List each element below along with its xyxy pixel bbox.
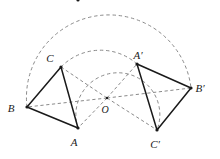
vertex-dot-C	[59, 65, 62, 68]
vertex-dot-B-prime	[189, 86, 192, 89]
triangle-a-prime-b-prime-c-prime	[137, 64, 191, 130]
diagram-canvas: A B C A′ B′ C′ O	[0, 0, 220, 159]
vertex-dot-B	[25, 105, 28, 108]
vertex-dot-A-prime	[135, 62, 138, 65]
vertex-dot-A-cy	[76, 126, 79, 129]
vertex-dot-A	[76, 0, 79, 2]
label-B: B	[8, 102, 15, 114]
label-C: C	[46, 52, 54, 64]
vertex-dot-C-prime	[155, 128, 158, 131]
radius-OBprime	[107, 88, 191, 98]
rotation-arcs-group	[26, 15, 191, 130]
label-O: O	[101, 104, 108, 115]
label-A: A	[70, 136, 78, 148]
vertex-labels-group: A B C A′ B′ C′ O	[8, 49, 206, 150]
arc-C-to-Aprime	[61, 50, 137, 67]
label-A-prime: A′	[132, 49, 143, 61]
vertex-dot-O	[106, 97, 108, 99]
label-B-prime: B′	[195, 82, 205, 94]
label-C-prime: C′	[150, 138, 160, 150]
rotation-diagram-figure: A B C A′ B′ C′ O	[0, 0, 220, 159]
radius-OB	[27, 98, 107, 107]
vertex-dots-group	[25, 0, 192, 132]
radius-OAprime	[107, 64, 137, 98]
arc-A-to-Cprime	[76, 73, 160, 130]
triangle-abc	[27, 67, 78, 128]
